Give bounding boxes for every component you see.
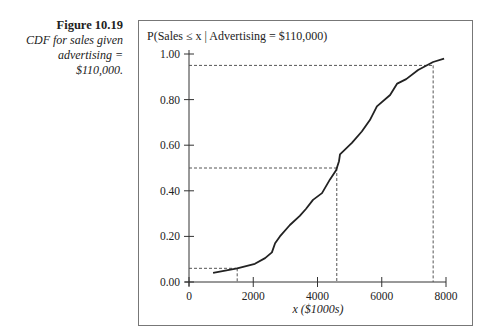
- cdf-chart: P(Sales ≤ x | Advertising = $110,000) 0.…: [0, 0, 499, 331]
- x-tick-label: 4000: [306, 290, 329, 302]
- reference-lines: [189, 65, 433, 282]
- x-tick-label: 2000: [242, 290, 265, 302]
- y-tick-label: 0.80: [160, 94, 180, 106]
- y-tick-label: 0.40: [160, 185, 180, 197]
- cdf-curve: [213, 59, 444, 273]
- y-tick-label: 0.20: [160, 230, 180, 242]
- x-axis-label: x ($1000s): [292, 302, 344, 316]
- x-tick-label: 0: [186, 290, 192, 302]
- chart-title: P(Sales ≤ x | Advertising = $110,000): [147, 29, 327, 43]
- y-tick-label: 0.00: [160, 276, 180, 288]
- axes: 0.000.200.400.600.801.000200040006000800…: [160, 48, 458, 302]
- y-tick-label: 0.60: [160, 139, 180, 151]
- x-tick-label: 6000: [370, 290, 393, 302]
- y-tick-label: 1.00: [160, 48, 180, 60]
- x-tick-label: 8000: [435, 290, 458, 302]
